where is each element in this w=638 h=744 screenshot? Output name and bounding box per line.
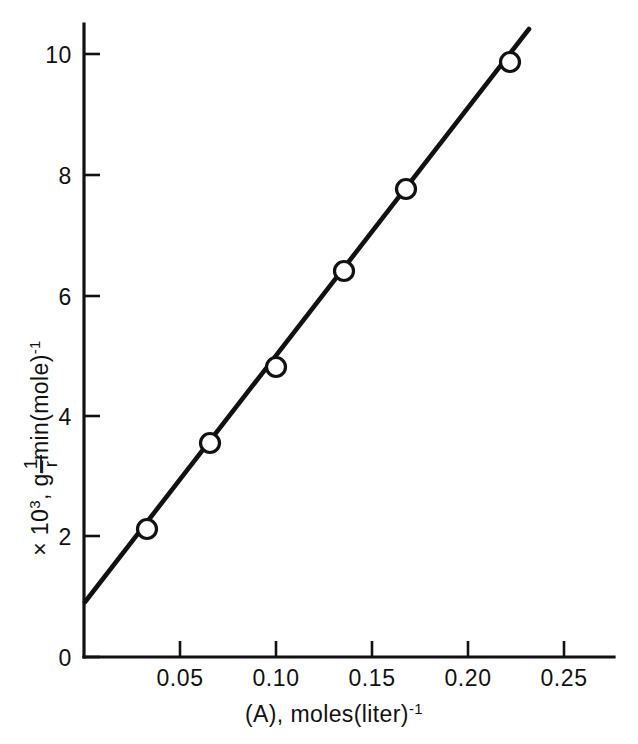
x-tick-marks (180, 641, 564, 657)
x-tick-label-0.15: 0.15 (348, 665, 395, 691)
y-tick-label-6: 6 (59, 284, 72, 310)
x-tick-label-0.20: 0.20 (444, 665, 491, 691)
axes-group (84, 24, 614, 657)
x-tick-label-0.25: 0.25 (540, 665, 587, 691)
x-tick-label-0.10: 0.10 (252, 665, 299, 691)
y-axis-title: 1 r × 103, g–min(mole)-1 (20, 340, 61, 556)
y-tick-label-8: 8 (59, 163, 72, 189)
x-tick-label-0.05: 0.05 (156, 665, 203, 691)
y-tick-label-0: 0 (59, 645, 72, 671)
data-point (335, 262, 354, 281)
y-axis-title-text: × 103, g–min(mole)-1 (26, 340, 54, 556)
x-axis-title-exponent: -1 (409, 700, 423, 717)
y-axis-multiplier-exponent: 3 (26, 500, 43, 509)
y-axis-multiplier: × 10 (27, 509, 53, 556)
linear-fit-line (85, 29, 529, 602)
data-point (397, 180, 416, 199)
y-tick-label-10: 10 (45, 42, 72, 68)
data-point (501, 53, 520, 72)
x-axis-title-main: (A), moles(liter) (245, 701, 409, 727)
data-point (267, 358, 286, 377)
x-axis-title: (A), moles(liter)-1 (245, 700, 423, 728)
data-point (138, 520, 157, 539)
x-tick-labels: 0.05 0.10 0.15 0.20 0.25 (156, 665, 587, 691)
y-tick-label-2: 2 (59, 524, 72, 550)
y-axis-units-exponent: -1 (26, 340, 43, 354)
figure-container: 0 2 4 6 8 10 0.05 0.10 0.15 0.20 0.25 (A (0, 0, 638, 744)
y-tick-label-4: 4 (59, 404, 72, 430)
scatter-plot: 0 2 4 6 8 10 0.05 0.10 0.15 0.20 0.25 (A (0, 0, 638, 744)
data-points-group (138, 53, 520, 539)
y-axis-units: , g–min(mole) (27, 354, 53, 500)
data-point (201, 434, 220, 453)
y-tick-marks (84, 54, 100, 657)
